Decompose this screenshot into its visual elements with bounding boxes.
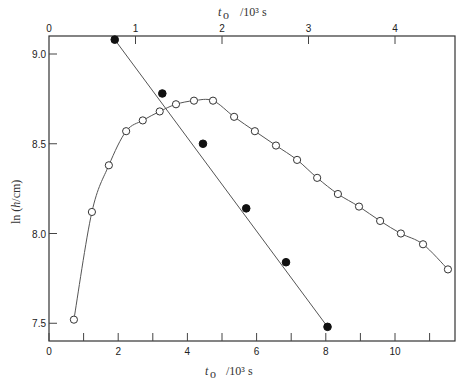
open-circle-point — [334, 190, 341, 197]
x-tick-label: 0 — [46, 346, 52, 357]
open-circle-point — [419, 241, 426, 248]
tick-labels: 0246810012347.58.08.59.0 — [32, 23, 401, 357]
open-circle-point — [251, 128, 258, 135]
filled-circle-point — [159, 90, 167, 98]
plot-frame — [49, 36, 455, 341]
bottom-axis-title-sub: o — [210, 367, 216, 381]
y-axis-title-text: ln (h/cm) — [9, 180, 23, 224]
open-circle-point — [139, 117, 146, 124]
open-circle-point — [377, 217, 384, 224]
open-circle-point — [156, 108, 163, 115]
x-tick-label: 8 — [323, 346, 329, 357]
bottom-axis-title-var: t — [205, 364, 209, 378]
open-circle-point — [397, 230, 404, 237]
y-axis-title: ln (h/cm) — [9, 180, 23, 224]
top-axis-title-unit: /10³ s — [240, 5, 267, 19]
axis-ticks — [49, 36, 430, 341]
plot-border — [49, 36, 455, 341]
filled-circle-point — [199, 140, 207, 148]
x-tick-label: 6 — [254, 346, 260, 357]
open-circle-point — [314, 174, 321, 181]
filled-circle-point — [324, 323, 332, 331]
filled-series-line — [115, 40, 328, 327]
bottom-axis-title: t o /10³ s — [205, 364, 253, 381]
y-tick-label: 9.0 — [32, 49, 46, 60]
x-tick-label: 2 — [115, 346, 121, 357]
open-circle-point — [172, 101, 179, 108]
x-tick-label: 4 — [185, 346, 191, 357]
y-tick-label: 8.0 — [32, 229, 46, 240]
open-circle-point — [190, 97, 197, 104]
x-top-tick-label: 0 — [46, 23, 52, 34]
top-axis-title-sub: o — [223, 8, 229, 22]
fit-curves — [74, 40, 448, 327]
open-circle-point — [444, 266, 451, 273]
data-points — [70, 36, 451, 331]
open-circle-point — [272, 142, 279, 149]
open-circle-point — [209, 97, 216, 104]
x-top-tick-label: 1 — [133, 23, 139, 34]
open-circle-point — [105, 162, 112, 169]
top-axis-title-var: t — [218, 5, 222, 19]
y-tick-label: 7.5 — [32, 318, 46, 329]
open-circle-point — [70, 316, 77, 323]
y-tick-label: 8.5 — [32, 139, 46, 150]
filled-circle-point — [111, 36, 119, 44]
open-circle-point — [123, 128, 130, 135]
top-axis-title: t o /10³ s — [218, 5, 267, 22]
x-tick-label: 10 — [389, 346, 401, 357]
filled-circle-point — [242, 205, 250, 213]
open-circle-point — [88, 208, 95, 215]
filled-circle-point — [282, 258, 290, 266]
bottom-axis-title-unit: /10³ s — [226, 364, 253, 378]
x-top-tick-label: 3 — [306, 23, 312, 34]
x-top-tick-label: 2 — [219, 23, 225, 34]
x-top-tick-label: 4 — [392, 23, 398, 34]
chart: 0246810012347.58.08.59.0 t o /10³ s t o … — [0, 0, 464, 385]
open-circle-point — [293, 156, 300, 163]
open-circle-point — [355, 203, 362, 210]
open-circle-point — [231, 113, 238, 120]
